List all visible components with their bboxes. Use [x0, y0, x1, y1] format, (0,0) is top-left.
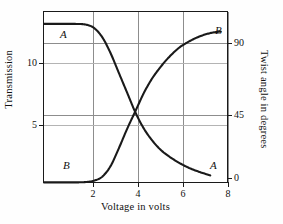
curves-svg [44, 12, 229, 184]
y-axis-right-title: Twist angle in degrees [258, 50, 270, 148]
chart-figure: Transmission Twist angle in degrees Volt… [0, 0, 283, 224]
tick-label-bottom-6: 6 [173, 189, 193, 199]
plot-area: 10 5 90 45 0 2 4 6 8 A B B A [43, 11, 228, 183]
tick-label-right-0: 0 [234, 173, 256, 183]
tick-label-bottom-4: 4 [128, 189, 148, 199]
curve-label-b-top: B [215, 25, 222, 36]
tick-label-right-90: 90 [234, 38, 256, 48]
tick-label-bottom-8: 8 [218, 189, 238, 199]
curve-label-a-top: A [60, 29, 67, 40]
tick-label-right-45: 45 [234, 110, 256, 120]
tick-label-bottom-2: 2 [83, 189, 103, 199]
curve-label-a-bottom: A [210, 160, 217, 171]
curve-label-b-bottom: B [63, 160, 70, 171]
x-axis-title: Voltage in volts [43, 201, 228, 212]
tick-label-left-5: 5 [15, 120, 37, 130]
tick-label-left-10: 10 [15, 58, 37, 68]
y-axis-left-title: Transmission [3, 50, 15, 109]
curve-a-transmission [44, 24, 210, 176]
